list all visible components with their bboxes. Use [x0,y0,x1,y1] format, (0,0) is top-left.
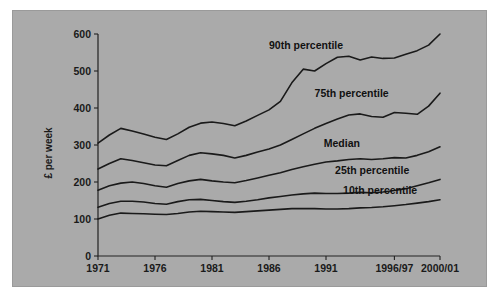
axis-lines [98,34,440,256]
x-tick-label: 1996/97 [375,262,413,274]
series-annotation: 90th percentile [269,39,343,51]
series-annotation: 10th percentile [343,184,417,196]
x-tick-label: 1986 [257,262,281,274]
y-axis-title: £ per week [43,127,54,179]
y-tick-label: 200 [73,176,91,188]
y-tick-label: 100 [73,213,91,225]
chart-figure: 0100200300400500600 19711976198119861991… [0,0,499,301]
x-tick-label: 1976 [143,262,167,274]
y-axis-ticks: 0100200300400500600 [73,28,98,262]
series-annotation: Median [324,137,360,149]
y-axis-title-text: £ per week [43,127,54,179]
y-tick-label: 500 [73,65,91,77]
line-chart: 0100200300400500600 19711976198119861991… [0,0,499,301]
y-tick-label: 400 [73,102,91,114]
x-tick-label: 1991 [314,262,338,274]
y-tick-label: 0 [85,250,91,262]
x-tick-label: 1971 [86,262,110,274]
x-axis-ticks: 197119761981198619911996/972000/01 [86,256,459,274]
series-annotation: 75th percentile [315,87,389,99]
x-tick-label: 1981 [200,262,224,274]
y-tick-label: 300 [73,139,91,151]
x-tick-label: 2000/01 [421,262,459,274]
chart-axes [98,34,440,256]
y-tick-label: 600 [73,28,91,40]
series-annotation: 25th percentile [335,164,409,176]
